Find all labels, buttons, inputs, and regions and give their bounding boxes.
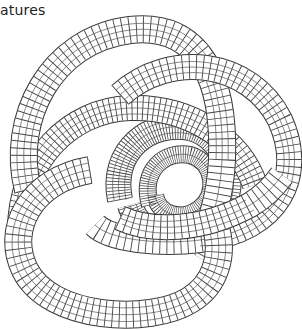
torus-knot-wireframe — [0, 0, 302, 330]
